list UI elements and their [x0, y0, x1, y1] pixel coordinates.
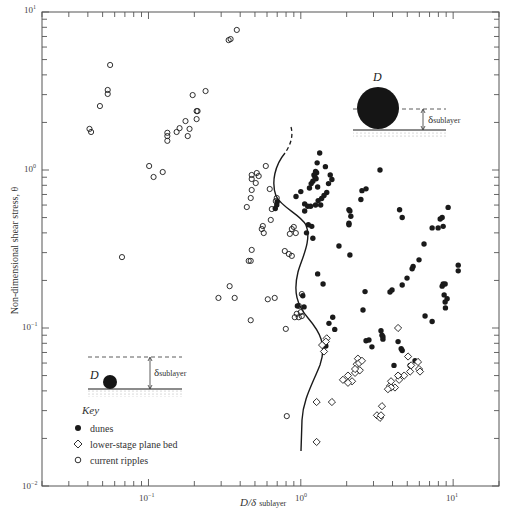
data-point-filled-circle [380, 334, 385, 339]
data-point-filled-circle [399, 215, 404, 220]
data-point-open-circle [234, 27, 239, 32]
data-point-open-circle [272, 295, 277, 300]
large-grain-d-label: D [373, 70, 382, 85]
data-point-filled-circle [315, 271, 320, 276]
data-point-open-diamond [313, 398, 320, 405]
data-point-open-diamond [378, 403, 385, 410]
legend-item-current-ripples: current ripples [72, 452, 178, 468]
data-point-open-diamond [320, 348, 327, 355]
small-grain-delta-label: δsublayer [154, 366, 186, 378]
data-point-open-diamond [328, 398, 335, 405]
large-grain-delta-label: δsublayer [428, 113, 460, 125]
data-point-open-circle [253, 180, 258, 185]
data-point-open-circle [105, 87, 110, 92]
data-point-open-circle [151, 174, 156, 179]
x-tick-label-10-0: 100 [295, 492, 307, 503]
data-point-filled-circle [347, 252, 352, 257]
data-point-filled-circle [293, 194, 298, 199]
data-point-open-circle [287, 231, 292, 236]
data-point-filled-circle [346, 207, 351, 212]
data-point-filled-circle [404, 275, 409, 280]
data-point-filled-circle [456, 268, 461, 273]
data-point-open-diamond [394, 324, 401, 331]
data-point-filled-circle [387, 289, 392, 294]
data-point-filled-circle [318, 202, 323, 207]
data-point-open-circle [283, 326, 288, 331]
data-point-open-circle [190, 92, 195, 97]
data-point-open-circle [108, 62, 113, 67]
data-point-filled-circle [445, 205, 450, 210]
data-point-open-circle [87, 126, 92, 131]
data-point-open-circle [293, 230, 298, 235]
data-point-open-circle [267, 186, 272, 191]
data-point-open-diamond [313, 438, 320, 445]
data-point-open-circle [249, 187, 254, 192]
y-tick-label-10-1: 101 [24, 4, 36, 15]
data-point-filled-circle [429, 319, 434, 324]
data-point-filled-circle [391, 363, 396, 368]
data-point-open-circle [160, 169, 165, 174]
data-point-open-diamond [344, 372, 351, 379]
data-point-filled-circle [397, 207, 402, 212]
data-point-filled-circle [399, 348, 404, 353]
data-point-filled-circle [366, 337, 371, 342]
data-point-open-circle [88, 129, 93, 134]
data-point-filled-circle [317, 150, 322, 155]
data-point-filled-circle [435, 225, 440, 230]
data-point-filled-circle [320, 281, 325, 286]
data-point-open-circle [265, 297, 270, 302]
y-tick-label-10-0: 100 [24, 163, 36, 174]
data-point-open-circle [248, 318, 253, 323]
data-point-filled-circle [429, 225, 434, 230]
data-point-filled-circle [309, 224, 314, 229]
x-tick-label-10-1: 101 [446, 492, 458, 503]
data-point-filled-circle [301, 304, 306, 309]
data-point-open-circle [248, 195, 253, 200]
data-point-filled-circle [443, 305, 448, 310]
open-circle-icon [72, 454, 84, 466]
y-tick-label-10-minus-2: 10−2 [22, 480, 37, 491]
y-tick-label-10-minus-1: 10−1 [22, 321, 37, 332]
data-point-filled-circle [442, 281, 447, 286]
legend: Key dunes lower-stage plane bed current … [72, 404, 178, 468]
data-point-filled-circle [377, 167, 382, 172]
data-point-open-circle [284, 413, 289, 418]
data-point-open-circle [244, 204, 249, 209]
data-point-filled-circle [348, 214, 353, 219]
data-point-open-circle [119, 255, 124, 260]
legend-item-dunes: dunes [72, 420, 178, 436]
data-point-filled-circle [399, 282, 404, 287]
data-point-filled-circle [369, 344, 374, 349]
data-point-filled-circle [421, 241, 426, 246]
data-point-filled-circle [360, 307, 365, 312]
data-point-filled-circle [346, 221, 351, 226]
data-point-filled-circle [395, 339, 400, 344]
data-point-open-circle [165, 130, 170, 135]
data-point-open-circle [227, 284, 232, 289]
data-point-open-circle [97, 103, 102, 108]
data-point-filled-circle [442, 299, 447, 304]
data-points [87, 27, 461, 445]
data-point-filled-circle [326, 181, 331, 186]
data-point-filled-circle [310, 236, 315, 241]
data-point-open-circle [260, 223, 265, 228]
y-axis-label: Non-dimensional shear stress, θ [9, 171, 20, 331]
data-point-open-circle [216, 295, 221, 300]
data-point-filled-circle [323, 164, 328, 169]
x-axis-label: D/δsublayer [240, 496, 286, 508]
data-point-filled-circle [330, 315, 335, 320]
data-point-filled-circle [326, 321, 331, 326]
data-point-open-circle [187, 126, 192, 131]
data-point-filled-circle [308, 204, 313, 209]
x-tick-label-10-minus-1: 10−1 [139, 492, 154, 503]
small-grain-icon [103, 375, 117, 389]
data-point-filled-circle [307, 185, 312, 190]
data-point-open-circle [263, 163, 268, 168]
data-point-filled-circle [363, 186, 368, 191]
data-point-open-circle [185, 133, 190, 138]
data-point-filled-circle [302, 208, 307, 213]
open-diamond-icon [72, 438, 84, 450]
data-point-filled-circle [378, 328, 383, 333]
data-point-open-circle [177, 126, 182, 131]
data-point-filled-circle [409, 266, 414, 271]
